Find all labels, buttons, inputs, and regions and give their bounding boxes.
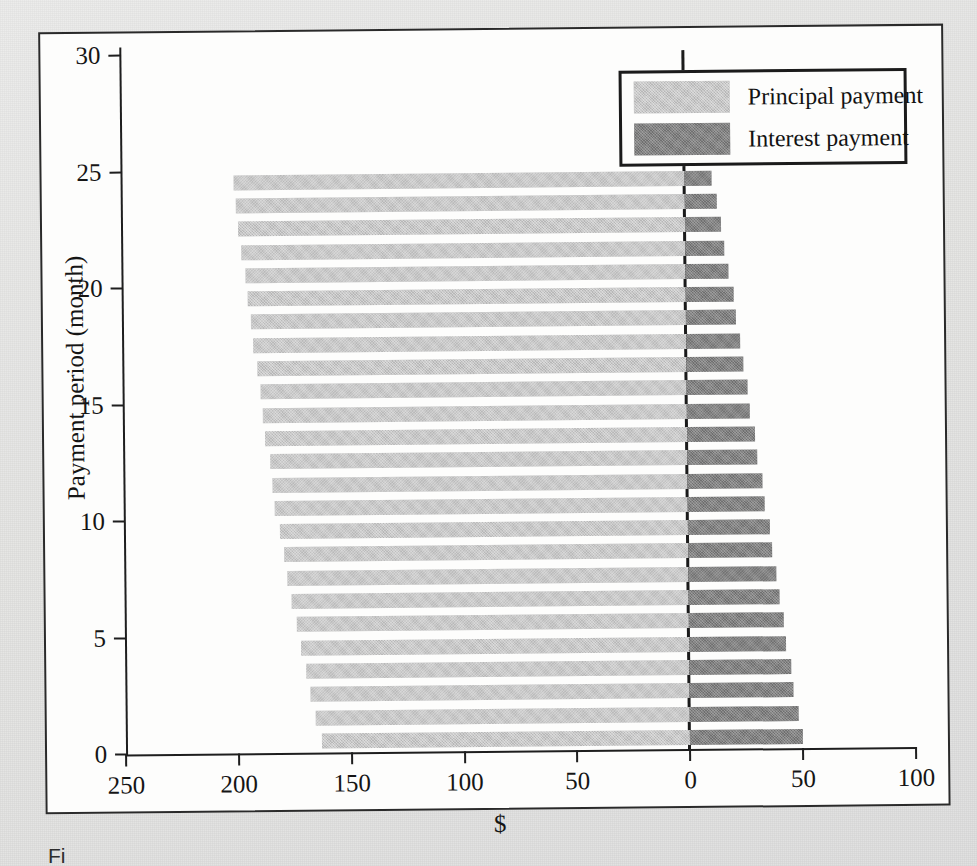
x-tick [238, 753, 240, 765]
bar-segment-principal [272, 474, 687, 493]
x-tick [576, 750, 578, 762]
y-axis-title: Payment period (month) [59, 78, 93, 678]
bar-row [46, 681, 951, 705]
bar-segment-principal [280, 520, 689, 539]
x-tick [464, 751, 466, 763]
bar-segment-principal [284, 544, 688, 563]
bar-segment-interest [689, 613, 784, 629]
bar-segment-principal [236, 194, 685, 213]
bar-segment-interest [689, 659, 791, 675]
bar-segment-principal [306, 660, 690, 679]
bar-segment-interest [688, 496, 765, 512]
legend-item-interest: Interest payment [634, 120, 909, 157]
bar-row [44, 378, 949, 402]
bar-row [43, 355, 948, 379]
y-tick-label: 30 [40, 43, 100, 69]
bar-segment-interest [688, 519, 769, 535]
bar-segment-principal [246, 264, 686, 283]
bar-segment-principal [315, 707, 690, 726]
bar-row [42, 168, 947, 192]
bar-segment-interest [687, 403, 750, 419]
bar-segment-interest [687, 380, 748, 396]
bar-row [46, 634, 951, 658]
y-axis-tick-labels: 051015202530 [40, 26, 945, 35]
bar-segment-principal [258, 357, 687, 376]
bar-segment-principal [241, 241, 686, 260]
x-axis-ticks [40, 26, 945, 35]
y-tick [113, 520, 125, 522]
bar-segment-principal [275, 497, 688, 516]
bar-segment-interest [686, 333, 740, 349]
bar-row [44, 401, 949, 425]
bar-segment-interest [689, 636, 786, 652]
bar-segment-principal [296, 613, 689, 632]
bar-segment-interest [685, 194, 717, 209]
bar-segment-principal [287, 567, 689, 586]
bar-row [43, 308, 948, 332]
x-axis-tick-labels: 25020015010050050100 [40, 26, 945, 35]
bar-segment-interest [689, 589, 779, 605]
bar-row [42, 261, 947, 285]
bar-segment-principal [233, 171, 685, 190]
bar-segment-interest [685, 217, 721, 232]
bar-row [45, 494, 950, 518]
bar-row [43, 331, 948, 355]
bar-row [44, 448, 949, 472]
bar-segment-interest [688, 473, 763, 489]
x-tick [915, 747, 917, 759]
bar-row [46, 611, 951, 635]
bar-segment-principal [251, 311, 687, 330]
bar-segment-interest [686, 264, 729, 279]
bar-row [42, 192, 947, 216]
bar-segment-principal [311, 683, 690, 702]
bar-segment-principal [322, 730, 690, 749]
bar-segment-interest [689, 566, 777, 582]
figure-caption-fragment: Fi [48, 844, 66, 866]
bar-segment-interest [687, 426, 755, 442]
bar-segment-principal [270, 450, 688, 469]
legend-label-interest: Interest payment [748, 125, 909, 151]
x-tick [689, 749, 691, 761]
x-tick-label: 250 [91, 772, 161, 798]
figure-skew-wrapper: 051015202530 25020015010050050100 $ Paym… [0, 0, 977, 866]
bar-row [42, 238, 947, 262]
legend-swatch-principal [634, 81, 730, 114]
y-axis-ticks [40, 26, 945, 35]
chart-legend: Principal payment Interest payment [619, 68, 908, 167]
bar-segment-interest [690, 706, 798, 722]
bar-segment-interest [690, 682, 794, 698]
bar-row [45, 541, 950, 565]
x-tick-label: 200 [204, 771, 274, 797]
bar-row [45, 564, 950, 588]
bar-segment-interest [686, 310, 736, 325]
bar-segment-principal [260, 380, 687, 399]
y-tick [112, 404, 124, 406]
bar-segment-principal [253, 334, 686, 353]
bar-row [43, 285, 948, 309]
legend-label-principal: Principal payment [748, 83, 924, 109]
figure-frame: 051015202530 25020015010050050100 $ Paym… [38, 24, 950, 815]
y-tick [111, 288, 123, 290]
bar-segment-principal [301, 637, 689, 656]
x-tick-label: 50 [768, 766, 838, 792]
y-tick [109, 171, 121, 173]
bar-segment-interest [690, 729, 803, 745]
bar-segment-principal [292, 590, 689, 609]
x-tick-label: 0 [655, 767, 725, 793]
bar-segment-principal [263, 404, 687, 423]
x-tick [351, 752, 353, 764]
bar-row [42, 215, 947, 239]
x-tick [802, 748, 804, 760]
bar-segment-principal [238, 217, 685, 236]
bar-segment-principal [248, 287, 686, 306]
x-tick [125, 754, 127, 766]
bar-row [45, 518, 950, 542]
legend-swatch-interest [634, 123, 730, 156]
bar-row [44, 471, 949, 495]
bar-segment-interest [687, 357, 744, 373]
bar-row [46, 658, 951, 682]
x-tick-label: 100 [881, 765, 951, 791]
plot-area: 051015202530 25020015010050050100 $ Paym… [40, 26, 952, 817]
bar-segment-interest [687, 450, 757, 466]
x-tick-label: 50 [543, 768, 613, 794]
